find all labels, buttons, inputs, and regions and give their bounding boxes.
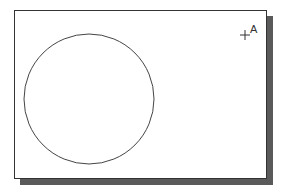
circle-shape[interactable] <box>24 34 154 164</box>
point-label: A <box>250 23 257 35</box>
drawing-canvas <box>0 0 283 192</box>
point-marker-icon[interactable] <box>240 30 250 40</box>
